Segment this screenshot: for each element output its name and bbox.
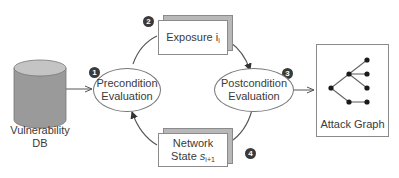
exposure-label: Exposure ii — [159, 31, 227, 47]
postcondition-label-line1: Postcondition — [221, 77, 287, 90]
attack-graph-box: Attack Graph — [316, 44, 389, 137]
vulnerability-db-label: Vulnerability DB — [4, 124, 76, 150]
network-state-card: Network State si+1 — [158, 133, 228, 167]
vulnerability-db-label-line1: Vulnerability — [4, 124, 76, 137]
vulnerability-db-label-line2: DB — [4, 137, 76, 150]
network-state-label-line1: Network — [159, 137, 227, 150]
network-state-label: Network State si+1 — [159, 137, 227, 166]
postcondition-evaluation-node: Postcondition Evaluation — [214, 68, 294, 112]
step-badge-2: 2 — [143, 16, 154, 27]
attack-tree-icon — [317, 45, 388, 115]
precondition-label-line1: Precondition — [96, 77, 157, 90]
exposure-subscript: i — [218, 37, 220, 44]
network-state-label-line2: State si+1 — [159, 150, 227, 166]
postcondition-label-line2: Evaluation — [221, 90, 287, 103]
network-to-precondition-arc — [132, 112, 157, 145]
attack-graph-label: Attack Graph — [317, 118, 388, 131]
attack-graph-generation-diagram: Vulnerability DB 1 Precondition Evaluati… — [0, 0, 399, 178]
exposure-card: Exposure ii — [158, 20, 228, 55]
precondition-evaluation-node: Precondition Evaluation — [93, 68, 161, 112]
exposure-to-postcondition-arc — [230, 42, 250, 70]
postcondition-to-network-arc — [230, 110, 252, 142]
precondition-to-exposure-arc — [133, 36, 157, 64]
step-badge-4: 4 — [245, 148, 256, 159]
network-state-subscript: i+1 — [205, 156, 215, 163]
precondition-label-line2: Evaluation — [96, 90, 157, 103]
